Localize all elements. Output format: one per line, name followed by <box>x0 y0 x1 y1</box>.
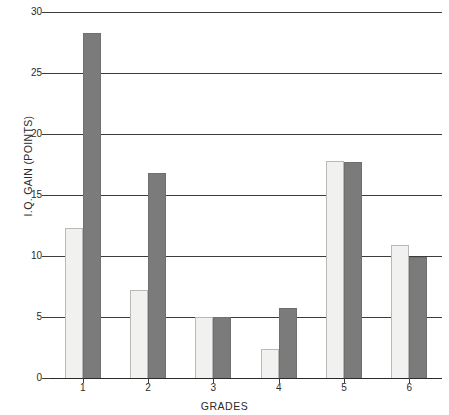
gridline <box>50 378 442 379</box>
gridline <box>50 256 442 257</box>
y-tick-label: 10 <box>16 251 42 261</box>
bar-dark-series-grade-4 <box>279 308 297 378</box>
y-tick-mark <box>42 73 50 74</box>
y-tick-label: 0 <box>16 373 42 383</box>
gridline <box>50 12 442 13</box>
bar-dark-series-grade-1 <box>83 33 101 378</box>
bar-dark-series-grade-5 <box>344 162 362 378</box>
bar-light-series-grade-1 <box>65 228 83 378</box>
x-tick-label-6: 6 <box>389 383 429 393</box>
bar-light-series-grade-6 <box>391 245 409 378</box>
y-tick-mark <box>42 12 50 13</box>
x-tick-label-5: 5 <box>324 383 364 393</box>
bar-light-series-grade-3 <box>195 317 213 378</box>
y-tick-mark <box>42 317 50 318</box>
x-tick-label-2: 2 <box>128 383 168 393</box>
x-tick-label-4: 4 <box>259 383 299 393</box>
bar-dark-series-grade-2 <box>148 173 166 378</box>
x-tick-label-3: 3 <box>193 383 233 393</box>
y-tick-mark <box>42 256 50 257</box>
gridline <box>50 195 442 196</box>
bar-chart: I.Q. GAIN (POINTS) 051015202530 123456 G… <box>0 0 449 415</box>
gridline <box>50 317 442 318</box>
y-tick-mark <box>42 378 50 379</box>
y-tick-label: 20 <box>16 129 42 139</box>
plot-area <box>50 12 442 378</box>
y-tick-mark <box>42 134 50 135</box>
y-tick-label: 5 <box>16 312 42 322</box>
bar-light-series-grade-5 <box>326 161 344 378</box>
bar-light-series-grade-4 <box>261 349 279 378</box>
x-tick-label-1: 1 <box>63 383 103 393</box>
y-tick-mark <box>42 195 50 196</box>
y-tick-label: 30 <box>16 7 42 17</box>
x-axis-title: GRADES <box>0 400 449 412</box>
y-axis-title: I.Q. GAIN (POINTS) <box>22 76 34 256</box>
bar-dark-series-grade-3 <box>213 317 231 378</box>
bar-dark-series-grade-6 <box>409 257 427 378</box>
bar-light-series-grade-2 <box>130 290 148 378</box>
gridline <box>50 73 442 74</box>
y-tick-label: 25 <box>16 68 42 78</box>
gridline <box>50 134 442 135</box>
y-tick-label: 15 <box>16 190 42 200</box>
